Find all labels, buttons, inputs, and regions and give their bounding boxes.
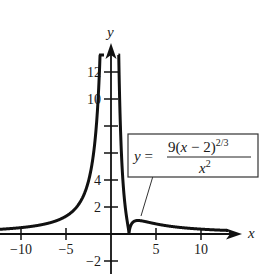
y-tick-label: 2 bbox=[94, 200, 101, 215]
x-tick-label: −10 bbox=[10, 242, 32, 257]
y-tick-label: −2 bbox=[86, 254, 101, 269]
x-ticks: −10−5510 bbox=[10, 228, 208, 257]
y-axis-label: y bbox=[105, 24, 114, 40]
x-axis-label: x bbox=[247, 225, 255, 241]
function-graph: −10−5510 −2241012 x y y = 9(x − 2)2/3 x2 bbox=[0, 0, 266, 274]
x-tick-label: 10 bbox=[194, 242, 208, 257]
equation-lhs: y = bbox=[132, 148, 153, 164]
label-pointer bbox=[141, 176, 153, 216]
equation-label-box: y = 9(x − 2)2/3 x2 bbox=[128, 134, 258, 177]
y-tick-label: 4 bbox=[94, 173, 101, 188]
curve-left-branch bbox=[0, 55, 104, 229]
x-tick-label: 5 bbox=[153, 242, 160, 257]
x-tick-label: −5 bbox=[59, 242, 74, 257]
